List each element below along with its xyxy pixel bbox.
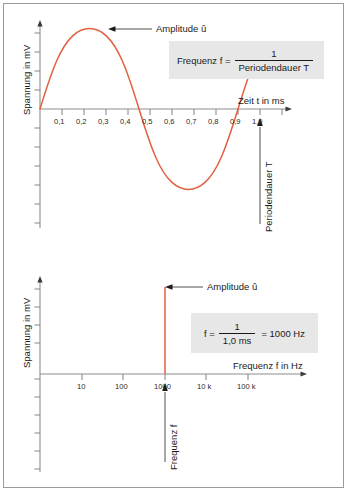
top-x-tick-label-3: 0,4 — [120, 118, 131, 126]
frequency-domain-panel: Spannung in mV Frequenz f in Hz 10 100 1… — [0, 250, 348, 492]
bottom-formula: f = 1 1,0 ms = 1000 Hz — [204, 321, 305, 346]
bottom-formula-tail: = 1000 Hz — [261, 328, 305, 339]
bottom-formula-numerator: 1 — [228, 321, 245, 333]
top-amplitude-annotation: Amplitude û — [156, 24, 206, 34]
top-x-tick-label-8: 0,9 — [230, 118, 241, 126]
bottom-x-tick-label-0: 10 — [77, 383, 85, 391]
top-x-tick-label-5: 0,6 — [164, 118, 175, 126]
amplitude-arrowhead — [165, 284, 173, 290]
top-x-tick-label-9: 1,0 — [252, 118, 263, 126]
top-formula-denominator: Periodendauer T — [235, 61, 314, 73]
x-axis-arrow — [286, 106, 293, 111]
period-annotation: Periodendauer T — [264, 161, 274, 232]
bottom-x-axis-title: Frequenz f in Hz — [233, 361, 303, 371]
bottom-formula-lead: f = — [204, 328, 215, 339]
x-axis-arrow — [301, 371, 308, 376]
bottom-x-tick-label-4: 100 k — [237, 383, 256, 391]
frequency-annotation: Frequenz f — [169, 425, 179, 470]
x-axis-ticks — [82, 374, 248, 380]
bottom-formula-box: f = 1 1,0 ms = 1000 Hz — [191, 313, 318, 353]
y-axis-arrow — [37, 276, 42, 283]
top-x-tick-label-7: 0,8 — [208, 118, 219, 126]
bottom-y-axis-title: Spannung in mV — [22, 298, 32, 368]
bottom-x-tick-label-1: 100 — [115, 383, 128, 391]
bottom-x-tick-label-2: 1000 — [154, 383, 171, 391]
y-axis-arrow — [37, 20, 42, 27]
time-domain-panel: Spannung in mV Zeit t in ms 0,1 0,2 0,3 … — [0, 0, 348, 250]
top-x-tick-label-2: 0,3 — [98, 118, 109, 126]
top-x-axis-title: Zeit t in ms — [238, 96, 284, 106]
top-formula-numerator: 1 — [265, 48, 282, 60]
amplitude-arrowhead — [108, 26, 116, 32]
top-formula: Frequenz f = 1 Periodendauer T — [177, 48, 316, 73]
top-x-tick-label-1: 0,2 — [76, 118, 87, 126]
top-formula-fraction: 1 Periodendauer T — [235, 48, 314, 73]
top-x-tick-label-6: 0,7 — [186, 118, 197, 126]
top-x-tick-label-0: 0,1 — [54, 118, 65, 126]
bottom-formula-denominator: 1,0 ms — [219, 334, 256, 346]
x-axis-ticks — [62, 109, 282, 115]
top-formula-lead: Frequenz f = — [177, 55, 231, 66]
bottom-formula-fraction: 1 1,0 ms — [219, 321, 256, 346]
bottom-x-tick-label-3: 10 k — [197, 383, 211, 391]
top-y-axis-title: Spannung in mV — [22, 45, 32, 115]
y-axis-ticks — [35, 33, 41, 223]
y-axis-ticks — [35, 289, 41, 469]
figure-root: Spannung in mV Zeit t in ms 0,1 0,2 0,3 … — [0, 0, 348, 492]
top-x-tick-label-4: 0,5 — [142, 118, 153, 126]
top-formula-box: Frequenz f = 1 Periodendauer T — [169, 41, 324, 79]
bottom-amplitude-annotation: Amplitude û — [207, 282, 257, 292]
